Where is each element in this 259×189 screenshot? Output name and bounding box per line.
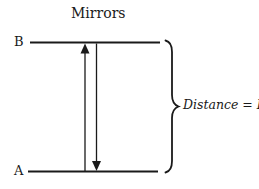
- bottom-mirror-label: A: [14, 164, 23, 177]
- diagram-title: Mirrors: [71, 6, 126, 20]
- diagram-canvas: [0, 0, 259, 189]
- mirrors-diagram: Mirrors B A Distance = L: [0, 0, 259, 189]
- down-arrowhead-icon: [92, 161, 101, 171]
- top-mirror-label: B: [14, 35, 24, 48]
- upward-light-ray: [81, 44, 90, 172]
- downward-light-ray: [92, 44, 101, 172]
- distance-brace: [166, 41, 179, 173]
- up-arrowhead-icon: [81, 44, 90, 54]
- distance-label: Distance = L: [183, 99, 259, 112]
